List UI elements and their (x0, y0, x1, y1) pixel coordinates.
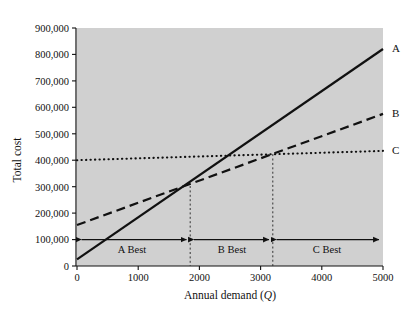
y-tick-label-600000: 600,000 (35, 102, 69, 113)
y-axis-title: Total cost (11, 137, 23, 183)
y-tick-label-400000: 400,000 (35, 155, 69, 166)
region-label-c-best: C Best (313, 244, 341, 255)
x-tick-label-4000: 4000 (311, 272, 332, 283)
x-tick-label-1000: 1000 (128, 272, 149, 283)
region-label-a-best: A Best (118, 244, 146, 255)
x-tick-label-2000: 2000 (189, 272, 210, 283)
x-axis-title-text: Annual demand ( (184, 289, 264, 302)
plot-area-background (77, 28, 383, 266)
x-tick-label-5000: 5000 (373, 272, 394, 283)
y-tick-label-500000: 500,000 (35, 129, 69, 140)
y-tick-label-700000: 700,000 (35, 76, 69, 87)
y-tick-label-200000: 200,000 (35, 208, 69, 219)
x-axis-title: Annual demand (Q) (184, 289, 276, 302)
x-tick-label-3000: 3000 (250, 272, 271, 283)
y-tick-label-100000: 100,000 (35, 234, 69, 245)
series-label-b: B (392, 107, 399, 119)
y-tick-label-0: 0 (64, 261, 69, 272)
series-label-a: A (392, 42, 400, 54)
region-label-b-best: B Best (218, 244, 246, 255)
x-axis-title-text-close: ) (272, 289, 276, 302)
y-tick-label-300000: 300,000 (35, 182, 69, 193)
chart-figure: 900,000 800,000 700,000 600,000 500,000 … (0, 0, 420, 311)
x-tick-label-0: 0 (74, 272, 79, 283)
chart-svg: 900,000 800,000 700,000 600,000 500,000 … (0, 0, 420, 311)
series-label-c: C (392, 144, 399, 156)
y-tick-label-800000: 800,000 (35, 49, 69, 60)
y-tick-label-900000: 900,000 (35, 23, 69, 34)
